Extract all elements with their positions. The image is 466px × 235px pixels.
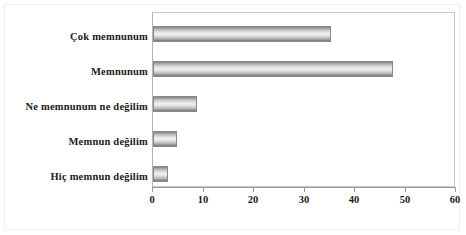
x-tick-mark-40 <box>354 188 355 192</box>
x-tick-label-40: 40 <box>339 194 369 205</box>
x-tick-mark-60 <box>455 188 456 192</box>
category-label-ne-memnunum-ne-degilim: Ne memnunum ne değilim <box>0 101 148 113</box>
x-tick-label-50: 50 <box>390 194 420 205</box>
x-tick-label-20: 20 <box>238 194 268 205</box>
category-label-memnunum: Memnunum <box>0 66 148 78</box>
bars-layer <box>153 12 455 187</box>
x-tick-mark-10 <box>203 188 204 192</box>
bar-hic-memnun-degilim <box>153 166 168 182</box>
bar-memnun-degilim <box>153 131 177 147</box>
x-tick-mark-20 <box>253 188 254 192</box>
chart-figure: Çok memnunum Memnunum Ne memnunum ne değ… <box>0 0 466 235</box>
x-tick-label-60: 60 <box>440 194 466 205</box>
category-label-hic-memnun-degilim: Hiç memnun değilim <box>0 171 148 183</box>
x-tick-label-30: 30 <box>289 194 319 205</box>
x-tick-mark-30 <box>304 188 305 192</box>
x-tick-label-0: 0 <box>137 194 167 205</box>
x-tick-label-10: 10 <box>188 194 218 205</box>
x-tick-mark-0 <box>152 188 153 192</box>
bar-memnunum <box>153 61 393 77</box>
category-label-memnun-degilim: Memnun değilim <box>0 136 148 148</box>
category-label-cok-memnunum: Çok memnunum <box>0 31 148 43</box>
y-axis-category-labels: Çok memnunum Memnunum Ne memnunum ne değ… <box>0 12 148 187</box>
x-tick-mark-50 <box>405 188 406 192</box>
bar-cok-memnunum <box>153 26 331 42</box>
bar-ne-memnunum-ne-degilim <box>153 96 197 112</box>
